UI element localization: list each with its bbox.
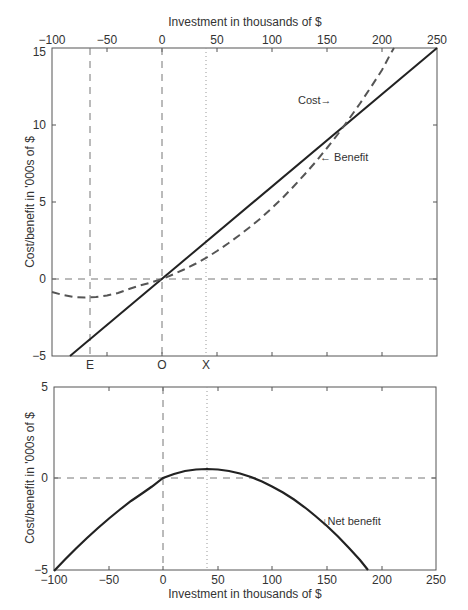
svg-text:250: 250 [426, 573, 446, 587]
bottom-x-tick-labels: −100 −50 0 50 100 150 200 250 [40, 573, 446, 587]
bottom-y-axis-label: Cost/benefit in '000s of $ [23, 412, 37, 544]
svg-text:−5: −5 [32, 349, 46, 363]
point-o-label: O [157, 358, 166, 372]
svg-text:−100: −100 [40, 573, 67, 587]
svg-text:5: 5 [41, 380, 48, 394]
top-x-tick-labels: −100 −50 0 50 100 150 200 250 [38, 33, 447, 47]
svg-text:100: 100 [262, 573, 282, 587]
top-x-axis-label: Investment in thousands of $ [168, 15, 322, 29]
top-y-axis-label: Cost/benefit in '000s of $ [23, 136, 37, 268]
svg-text:−50: −50 [97, 33, 118, 47]
top-ticks [52, 48, 437, 356]
svg-text:0: 0 [159, 33, 166, 47]
svg-text:200: 200 [372, 573, 392, 587]
svg-text:5: 5 [39, 195, 46, 209]
net-benefit-label: ↓Net benefit [322, 515, 381, 527]
benefit-label: ← Benefit [320, 151, 368, 163]
cost-label: Cost→ [298, 94, 332, 106]
svg-text:15: 15 [33, 45, 47, 59]
svg-text:50: 50 [211, 573, 225, 587]
svg-text:10: 10 [33, 118, 47, 132]
benefit-line [70, 48, 437, 356]
net-benefit-curve-main [54, 469, 368, 571]
svg-text:0: 0 [160, 573, 167, 587]
svg-text:200: 200 [372, 33, 392, 47]
svg-text:150: 150 [317, 33, 337, 47]
svg-text:0: 0 [41, 471, 48, 485]
figure: Investment in thousands of $ −100 −50 0 … [0, 0, 468, 610]
svg-text:0: 0 [39, 272, 46, 286]
svg-text:100: 100 [262, 33, 282, 47]
point-x-label: X [202, 358, 210, 372]
svg-text:−50: −50 [99, 573, 120, 587]
bottom-x-axis-label: Investment in thousands of $ [168, 587, 322, 601]
svg-text:50: 50 [210, 33, 224, 47]
svg-text:150: 150 [317, 573, 337, 587]
cost-curve [52, 48, 394, 298]
top-plot-frame [52, 48, 437, 356]
point-e-label: E [86, 358, 94, 372]
svg-text:250: 250 [427, 33, 447, 47]
